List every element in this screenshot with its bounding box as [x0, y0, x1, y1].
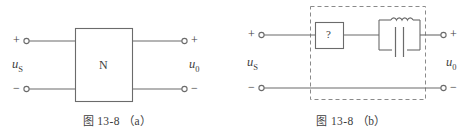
terminal-input-minus-b: [259, 85, 264, 90]
output-voltage-subscript-b: 0: [452, 62, 456, 72]
input-plus-sign-a: +: [13, 34, 20, 46]
caption-number-a: 13-8: [97, 115, 120, 127]
output-voltage-subscript-a: 0: [195, 64, 199, 74]
terminal-output-plus: [182, 38, 187, 43]
output-plus-sign-a: +: [191, 34, 198, 46]
output-plus-sign-b: +: [450, 28, 457, 40]
figure-sheet: + − + − uS u0 N 图 13-8 （a）: [0, 0, 468, 137]
inductor-coil-icon: [391, 18, 413, 20]
terminal-input-minus: [24, 86, 29, 91]
caption-panel-b: 图 13-8 （b）: [234, 112, 468, 128]
caption-part-b: （b）: [357, 115, 386, 127]
caption-panel-a: 图 13-8 （a）: [0, 112, 234, 128]
terminal-output-plus-b: [441, 32, 446, 37]
source-voltage-subscript-b: S: [253, 62, 258, 72]
input-minus-sign-b: −: [248, 81, 255, 93]
unknown-block-label: ?: [326, 29, 331, 40]
terminal-output-minus-b: [441, 85, 446, 90]
terminal-input-plus: [24, 38, 29, 43]
source-voltage-label-b: uS: [247, 56, 258, 71]
output-minus-sign-a: −: [191, 82, 198, 94]
input-plus-sign-b: +: [248, 28, 255, 40]
terminal-output-minus: [182, 86, 187, 91]
output-voltage-label-b: u0: [446, 56, 457, 71]
output-minus-sign-b: −: [450, 81, 457, 93]
figure-panel-b: + − + − uS u0 ? 图 13-8 （b）: [234, 0, 468, 137]
source-voltage-subscript-a: S: [18, 64, 23, 74]
source-voltage-label-a: uS: [12, 58, 23, 73]
caption-cjk-b: 图: [316, 115, 327, 128]
caption-part-a: （a）: [123, 115, 151, 127]
output-voltage-label-a: u0: [189, 58, 200, 73]
network-boundary-dashed-box: [311, 7, 426, 100]
input-minus-sign-a: −: [13, 82, 20, 94]
terminal-input-plus-b: [259, 32, 264, 37]
figure-panel-a: + − + − uS u0 N 图 13-8 （a）: [0, 0, 234, 137]
network-block-label: N: [99, 59, 108, 71]
caption-cjk-a: 图: [83, 115, 94, 128]
caption-number-b: 13-8: [331, 115, 354, 127]
